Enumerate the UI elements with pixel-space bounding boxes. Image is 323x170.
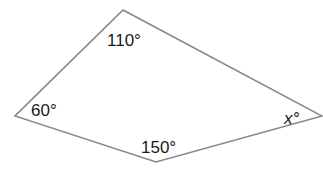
angle-label-bottom: 150°: [141, 138, 176, 157]
angle-label-top: 110°: [107, 31, 141, 50]
angle-label-left: 60°: [31, 101, 57, 120]
angle-label-right-unknown: x°: [283, 109, 300, 128]
quadrilateral-diagram: 110° 60° 150° x°: [0, 0, 323, 170]
